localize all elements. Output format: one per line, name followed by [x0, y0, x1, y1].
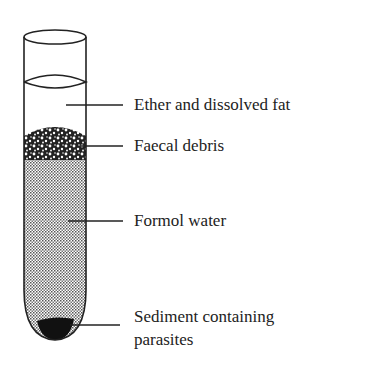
label-formol-water: Formol water [134, 210, 226, 231]
label-sediment-line2: parasites [134, 329, 193, 350]
label-ether-and-dissolved-fat: Ether and dissolved fat [134, 94, 290, 115]
formol-water-layer [20, 152, 90, 342]
faecal-debris-layer [24, 127, 86, 160]
label-faecal-debris: Faecal debris [134, 135, 224, 156]
ether-surface [24, 75, 86, 88]
label-sediment-line1: Sediment containing [134, 306, 274, 327]
tube-rim [24, 30, 86, 44]
